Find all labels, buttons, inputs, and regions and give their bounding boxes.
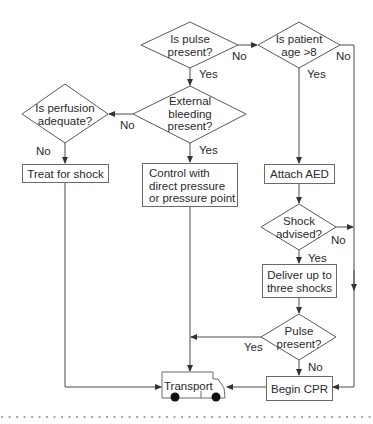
decision-external-bleeding-label: External bleeding present? — [150, 95, 230, 133]
action-begin-cpr: Begin CPR — [266, 376, 333, 401]
edge-label-shock-yes: Yes — [308, 252, 327, 264]
label-line: three shocks — [263, 282, 336, 295]
label-line: direct pressure — [149, 180, 237, 193]
edge-label-pulse-yes: Yes — [199, 68, 218, 80]
edge-label-age-yes: Yes — [307, 68, 326, 80]
edge-label-pulse-no: No — [232, 50, 247, 62]
label-line: age >8 — [264, 46, 334, 59]
label-line: Deliver up to — [263, 269, 336, 282]
edge-label-perfusion-no: No — [36, 145, 51, 157]
action-treat-shock: Treat for shock — [22, 164, 109, 183]
label-line: Is perfusion — [25, 102, 105, 115]
action-attach-aed: Attach AED — [264, 164, 335, 184]
edge-label-shock-no: No — [331, 234, 346, 246]
label-line: present? — [264, 338, 334, 351]
label-line: or pressure point — [149, 192, 237, 205]
decision-shock-advised-label: Shock advised? — [264, 215, 334, 240]
decision-perfusion-label: Is perfusion adequate? — [25, 102, 105, 127]
decision-pulse-present-2-label: Pulse present? — [264, 325, 334, 350]
edge-label-pulse2-no: No — [308, 361, 323, 373]
edge-label-bleeding-no: No — [120, 119, 135, 131]
label-line: Control with — [149, 167, 237, 180]
label-line: Is pulse — [155, 33, 225, 46]
label-line: Pulse — [264, 325, 334, 338]
edge-label-age-no: No — [336, 50, 351, 62]
label-line: present? — [155, 46, 225, 59]
edge-label-bleeding-yes: Yes — [199, 144, 218, 156]
label-line: Is patient — [264, 33, 334, 46]
wheel-rear-icon — [171, 393, 180, 402]
label-line: present? — [150, 120, 230, 133]
action-transport-label: Transport — [164, 380, 212, 393]
label-line: advised? — [264, 228, 334, 241]
decision-pulse-present-label: Is pulse present? — [155, 33, 225, 58]
label-line: adequate? — [25, 115, 105, 128]
action-control-bleeding: Control with direct pressure or pressure… — [142, 163, 238, 207]
label-line: External — [150, 95, 230, 108]
label-line: bleeding — [150, 108, 230, 121]
label-line: Shock — [264, 215, 334, 228]
wheel-front-icon — [212, 393, 221, 402]
decision-patient-age-label: Is patient age >8 — [264, 33, 334, 58]
edge-label-pulse2-yes: Yes — [244, 341, 263, 353]
action-deliver-shocks: Deliver up to three shocks — [262, 264, 337, 298]
